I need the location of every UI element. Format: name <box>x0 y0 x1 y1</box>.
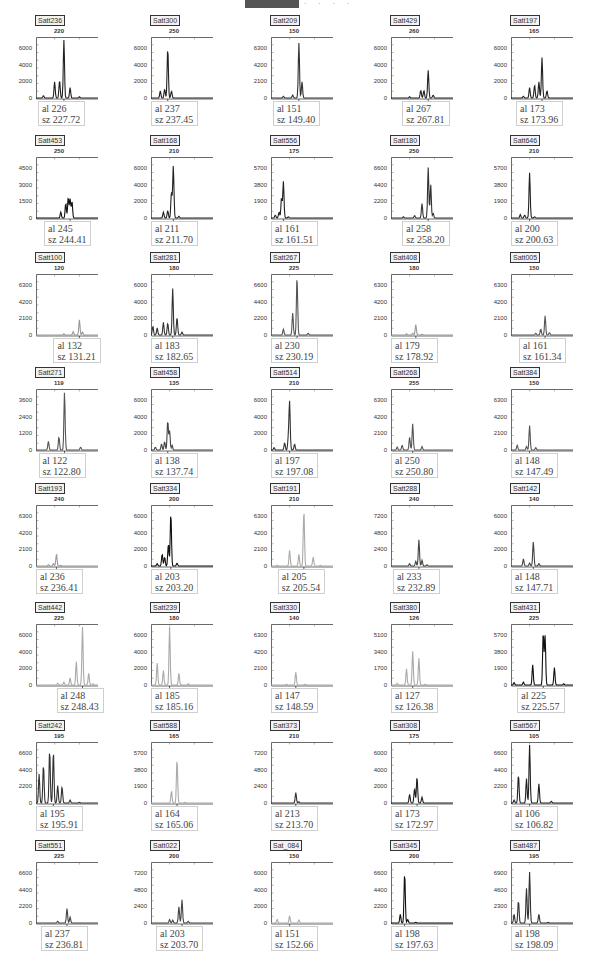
y-tick-label: 3000 <box>6 182 32 189</box>
y-tick-label: 6300 <box>361 282 387 289</box>
y-tick-label: 4400 <box>361 887 387 894</box>
allele-info-box: al 179sz 178.92 <box>391 338 438 363</box>
size-call: sz 205.54 <box>282 582 320 593</box>
allele-info-box: al 237sz 237.45 <box>151 101 198 126</box>
signal-trace <box>271 793 333 803</box>
y-tick-label: 0 <box>121 800 147 807</box>
allele-call: al 237 <box>155 103 193 114</box>
allele-info-box: al 106sz 106.82 <box>511 806 558 831</box>
y-tick-label: 5700 <box>481 632 507 639</box>
allele-call: al 173 <box>395 808 433 819</box>
signal-trace <box>391 651 453 685</box>
y-tick-label: 2100 <box>6 315 32 322</box>
marker-label: Satt345 <box>390 840 420 851</box>
trace-plot <box>271 157 337 223</box>
marker-label: Satt514 <box>270 367 300 378</box>
allele-call: al 198 <box>515 928 553 939</box>
y-tick-label: 4000 <box>481 530 507 537</box>
trace-plot <box>511 157 577 223</box>
trace-plot <box>36 742 102 808</box>
y-tick-label: 3800 <box>121 767 147 774</box>
allele-info-box: al 185sz 185.16 <box>151 688 198 713</box>
allele-info-box: al 267sz 267.81 <box>402 101 449 126</box>
allele-info-box: al 173sz 172.97 <box>391 806 438 831</box>
y-tick-label: 0 <box>241 920 267 927</box>
marker-label: Satt646 <box>510 135 540 146</box>
trace-plot <box>271 37 337 103</box>
allele-info-box: al 198sz 198.09 <box>511 926 558 951</box>
allele-info-box: al 211sz 211.70 <box>151 221 198 246</box>
trace-plot <box>271 742 337 808</box>
size-call: sz 172.97 <box>395 819 433 830</box>
size-call: sz 195.91 <box>40 819 78 830</box>
x-tick-label: 150 <box>529 265 539 272</box>
allele-call: al 161 <box>523 340 561 351</box>
y-tick-label: 0 <box>6 95 32 102</box>
y-tick-label: 4000 <box>361 62 387 69</box>
trace-plot <box>36 862 102 928</box>
y-tick-label: 0 <box>481 920 507 927</box>
y-tick-label: 2200 <box>241 315 267 322</box>
y-tick-label: 2100 <box>6 546 32 553</box>
size-call: sz 173.96 <box>520 114 558 125</box>
chart-panel: Satt4581356000400020000al 138sz 137.74 <box>125 367 237 485</box>
y-tick-label: 0 <box>361 95 387 102</box>
size-call: sz 149.40 <box>277 114 315 125</box>
y-tick-label: 2400 <box>121 903 147 910</box>
allele-call: al 195 <box>40 808 78 819</box>
size-call: sz 197.08 <box>275 466 313 477</box>
x-tick-label: 250 <box>409 148 419 155</box>
x-tick-label: 180 <box>169 615 179 622</box>
chart-panel: Satt3732107200480024000al 213sz 213.70 <box>245 720 357 838</box>
y-tick-label: 6600 <box>361 165 387 172</box>
y-tick-label: 2100 <box>241 78 267 85</box>
y-tick-label: 6000 <box>241 397 267 404</box>
size-call: sz 203.70 <box>160 939 198 950</box>
allele-info-box: al 237sz 236.81 <box>41 926 88 951</box>
signal-trace <box>271 181 333 218</box>
trace-plot <box>391 37 457 103</box>
chart-panel: Satt5512256600440022000al 237sz 236.81 <box>10 840 122 958</box>
y-tick-label: 6000 <box>121 632 147 639</box>
signal-trace <box>36 627 98 685</box>
x-tick-label: 210 <box>289 380 299 387</box>
marker-label: Satt271 <box>35 367 65 378</box>
signal-trace <box>511 745 573 803</box>
size-call: sz 161.34 <box>523 351 561 362</box>
allele-info-box: al 203sz 203.70 <box>156 926 203 951</box>
y-tick-label: 0 <box>241 332 267 339</box>
trace-plot <box>391 624 457 690</box>
x-tick-label: 225 <box>54 615 64 622</box>
y-tick-label: 0 <box>361 682 387 689</box>
size-call: sz 137.74 <box>155 466 193 477</box>
marker-label: Satt458 <box>150 367 180 378</box>
chart-panel: Satt2421956600440022000al 195sz 195.91 <box>10 720 122 838</box>
y-tick-label: 0 <box>481 682 507 689</box>
allele-call: al 248 <box>61 690 99 701</box>
size-call: sz 152.66 <box>275 939 313 950</box>
size-call: sz 230.19 <box>275 351 313 362</box>
chart-panel: Satt3081756000400020000al 173sz 172.97 <box>365 720 477 838</box>
signal-trace <box>151 900 213 923</box>
marker-label: Satt442 <box>35 602 65 613</box>
y-tick-label: 6600 <box>6 870 32 877</box>
y-tick-label: 4000 <box>6 62 32 69</box>
size-call: sz 147.71 <box>515 582 553 593</box>
y-tick-label: 4800 <box>241 767 267 774</box>
y-tick-label: 0 <box>6 920 32 927</box>
marker-label: Satt180 <box>390 135 420 146</box>
y-tick-label: 4200 <box>241 649 267 656</box>
allele-call: al 200 <box>515 223 553 234</box>
y-tick-label: 2200 <box>361 903 387 910</box>
trace-plot <box>271 862 337 928</box>
y-tick-label: 2000 <box>121 78 147 85</box>
signal-trace <box>36 555 98 566</box>
allele-info-box: al 213sz 213.70 <box>271 806 318 831</box>
y-tick-label: 4000 <box>241 887 267 894</box>
y-tick-label: 2400 <box>6 414 32 421</box>
trace-plot <box>511 505 577 571</box>
chart-panel: Satt1802506600440022000al 258sz 258.20 <box>365 135 477 253</box>
size-call: sz 200.63 <box>515 234 553 245</box>
y-tick-label: 7200 <box>121 870 147 877</box>
allele-call: al 106 <box>515 808 553 819</box>
